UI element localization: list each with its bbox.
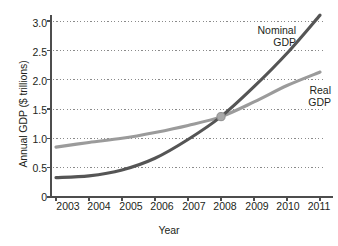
axis-lines [51,15,333,197]
intersection-marker [217,113,225,121]
data-series [56,15,320,178]
axis-ticks [47,21,320,201]
plot-area [0,0,338,246]
gdp-line-chart: Annual GDP ($ trillions) Year 0 0.5 1.0 … [0,0,338,246]
gridlines [53,21,325,168]
